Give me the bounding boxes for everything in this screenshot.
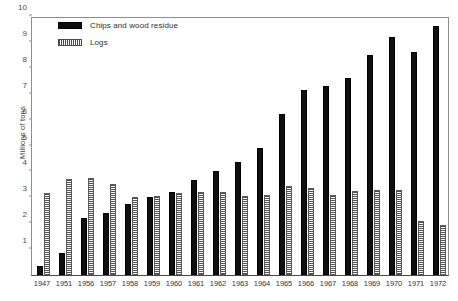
bar-logs: [418, 221, 424, 275]
bar-chips-and-wood-residue: [389, 37, 395, 275]
bar-group: [389, 18, 402, 275]
bar-logs: [352, 191, 358, 275]
x-axis-tick-label: 1972: [430, 279, 446, 288]
bar-group: [301, 18, 314, 275]
x-axis-tick-label: 1970: [386, 279, 402, 288]
bar-logs: [264, 195, 270, 275]
bar-group: [213, 18, 226, 275]
bar-group: [279, 18, 292, 275]
bar-chips-and-wood-residue: [235, 162, 241, 275]
bar-group: [81, 18, 94, 275]
bar-group: [433, 18, 446, 275]
bar-chips-and-wood-residue: [345, 78, 351, 275]
bar-logs: [66, 179, 72, 275]
y-axis-tick-label: 9: [23, 28, 27, 37]
bar-logs: [154, 196, 160, 275]
y-axis-tick-label: 6: [23, 106, 27, 115]
x-axis-tick-label: 1958: [122, 279, 138, 288]
y-axis-tick-label: 10: [18, 3, 27, 12]
legend-item: Chips and wood residue: [58, 19, 178, 32]
y-axis-tick-label: 8: [23, 54, 27, 63]
x-axis-tick-label: 1968: [342, 279, 358, 288]
bar-logs: [286, 186, 292, 275]
bar-chips-and-wood-residue: [81, 218, 87, 275]
bar-chips-and-wood-residue: [125, 204, 131, 275]
y-axis-tick-label: 5: [23, 132, 27, 141]
x-axis-tick-label: 1961: [188, 279, 204, 288]
chart-legend: Chips and wood residueLogs: [58, 19, 178, 53]
x-axis-tick-label: 1951: [56, 279, 72, 288]
bar-group: [257, 18, 270, 275]
legend-item: Logs: [58, 36, 178, 49]
bar-logs: [44, 193, 50, 275]
x-axis-tick-label: 1969: [364, 279, 380, 288]
x-axis-tick-label: 1971: [408, 279, 424, 288]
legend-item-label: Logs: [90, 38, 108, 47]
bar-chips-and-wood-residue: [59, 253, 65, 275]
bar-chips-and-wood-residue: [147, 197, 153, 275]
bar-chart-figure: Millions of tons 12345678910 19471951195…: [0, 0, 458, 301]
bar-group: [59, 18, 72, 275]
bar-group: [147, 18, 160, 275]
x-axis-tick-label: 1957: [100, 279, 116, 288]
bar-chips-and-wood-residue: [433, 26, 439, 275]
bar-group: [323, 18, 336, 275]
bar-group: [411, 18, 424, 275]
plot-area: 12345678910: [31, 17, 449, 276]
bar-chips-and-wood-residue: [367, 55, 373, 275]
bar-logs: [242, 196, 248, 275]
bar-group: [103, 18, 116, 275]
bar-logs: [132, 197, 138, 275]
legend-swatch-hatch-icon: [58, 39, 82, 46]
legend-swatch-solid-icon: [58, 22, 82, 29]
bar-logs: [330, 195, 336, 275]
bar-chips-and-wood-residue: [301, 90, 307, 275]
x-axis-tick-label: 1962: [210, 279, 226, 288]
bar-logs: [198, 192, 204, 275]
bar-chips-and-wood-residue: [37, 266, 43, 275]
bar-chips-and-wood-residue: [103, 213, 109, 275]
y-axis-tick-label: 7: [23, 80, 27, 89]
y-axis-tick-label: 3: [23, 184, 27, 193]
x-axis-tick-label: 1959: [144, 279, 160, 288]
bar-logs: [88, 178, 94, 275]
bar-group: [125, 18, 138, 275]
bar-group: [235, 18, 248, 275]
bar-chips-and-wood-residue: [191, 180, 197, 275]
bar-logs: [440, 225, 446, 276]
bar-chips-and-wood-residue: [169, 192, 175, 275]
y-axis-tick-mark: [29, 15, 32, 16]
y-axis-tick-label: 2: [23, 210, 27, 219]
bar-logs: [396, 190, 402, 275]
bar-chips-and-wood-residue: [323, 86, 329, 275]
bar-group: [345, 18, 358, 275]
legend-item-label: Chips and wood residue: [90, 21, 178, 30]
bar-logs: [220, 192, 226, 275]
x-axis-tick-label: 1960: [166, 279, 182, 288]
bar-chips-and-wood-residue: [257, 148, 263, 275]
y-axis-tick-label: 1: [23, 236, 27, 245]
bar-group: [37, 18, 50, 275]
bar-logs: [110, 184, 116, 275]
x-axis-tick-label: 1956: [78, 279, 94, 288]
bar-series-container: [32, 18, 448, 275]
x-axis-tick-label: 1964: [254, 279, 270, 288]
bar-group: [191, 18, 204, 275]
y-axis-tick-label: 4: [23, 158, 27, 167]
bar-group: [169, 18, 182, 275]
bar-group: [367, 18, 380, 275]
x-axis-ticks: 1947195119561957195819591960196119621963…: [31, 279, 449, 299]
x-axis-tick-label: 1967: [320, 279, 336, 288]
bar-chips-and-wood-residue: [411, 52, 417, 275]
x-axis-tick-label: 1966: [298, 279, 314, 288]
bar-logs: [308, 188, 314, 275]
bar-chips-and-wood-residue: [279, 114, 285, 275]
x-axis-tick-label: 1965: [276, 279, 292, 288]
bar-logs: [176, 193, 182, 275]
bar-logs: [374, 190, 380, 275]
bar-chips-and-wood-residue: [213, 171, 219, 275]
x-axis-tick-label: 1963: [232, 279, 248, 288]
x-axis-tick-label: 1947: [34, 279, 50, 288]
